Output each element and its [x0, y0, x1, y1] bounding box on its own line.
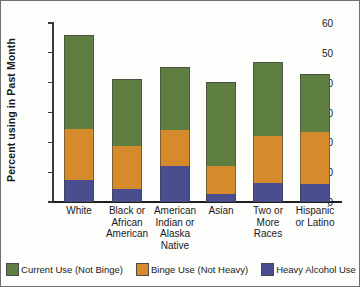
x-axis-label-line: or Latino — [285, 217, 345, 229]
bar-segment — [64, 180, 94, 202]
x-axis-label-line: Indian or — [145, 217, 205, 229]
y-axis-tick — [48, 52, 53, 53]
x-axis-label-line: Races — [238, 228, 298, 240]
bar-segment — [300, 132, 330, 184]
legend-label: Binge Use (Not Heavy) — [151, 264, 248, 275]
bar-segment — [112, 189, 142, 202]
x-axis-label-line: Hispanic — [285, 205, 345, 217]
y-axis-tick-label: 50 — [322, 47, 333, 58]
y-axis-tick-label: 60 — [322, 18, 333, 29]
bar-segment — [253, 62, 283, 137]
bar-segment — [64, 129, 94, 180]
legend-swatch — [136, 263, 149, 276]
legend-label: Current Use (Not Binge) — [21, 264, 123, 275]
legend-item[interactable]: Heavy Alcohol Use — [261, 263, 356, 276]
bar-segment — [160, 166, 190, 202]
bar-stack — [253, 62, 283, 202]
bar-stack — [160, 67, 190, 202]
y-axis-title-text: Percent using in Past Month — [5, 38, 17, 182]
bar-segment — [206, 166, 236, 194]
bar-stack — [206, 82, 236, 202]
bar-segment — [112, 79, 142, 146]
legend-swatch — [6, 263, 19, 276]
bar-stack — [112, 79, 142, 202]
bar-segment — [206, 82, 236, 166]
bar-stack — [64, 35, 94, 202]
bar-segment — [253, 136, 283, 183]
bar-segment — [160, 130, 190, 165]
bar-segment — [64, 35, 94, 129]
y-axis-tick — [48, 22, 53, 23]
y-axis-tick — [48, 82, 53, 83]
bar-stack — [300, 74, 330, 202]
x-axis-label: Hispanicor Latino — [285, 205, 345, 228]
y-axis-tick — [48, 201, 53, 202]
bar-segment — [112, 146, 142, 188]
plot-area: 0102030405060 — [53, 23, 341, 202]
x-axis-label-line: Alaska — [145, 228, 205, 240]
bar-segment — [253, 183, 283, 202]
chart-legend: Current Use (Not Binge)Binge Use (Not He… — [1, 263, 360, 276]
bar-segment — [300, 184, 330, 202]
legend-item[interactable]: Current Use (Not Binge) — [6, 263, 123, 276]
y-axis-tick — [48, 172, 53, 173]
legend-swatch — [261, 263, 274, 276]
legend-item[interactable]: Binge Use (Not Heavy) — [136, 263, 248, 276]
bar-segment — [206, 194, 236, 202]
bar-segment — [300, 74, 330, 132]
y-axis-title: Percent using in Past Month — [3, 15, 19, 205]
bar-segment — [160, 67, 190, 131]
legend-label: Heavy Alcohol Use — [276, 264, 356, 275]
y-axis-tick — [48, 112, 53, 113]
x-axis-labels: WhiteBlack orAfricanAmericanAmericanIndi… — [53, 205, 341, 263]
y-axis-tick — [48, 142, 53, 143]
x-axis-label-line: Native — [145, 240, 205, 252]
chart-figure: Percent using in Past Month 010203040506… — [0, 0, 360, 287]
